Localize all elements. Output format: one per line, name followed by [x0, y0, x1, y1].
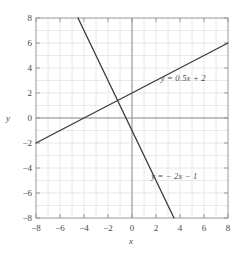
y-tick-label: −6: [14, 188, 32, 198]
x-tick-label: 8: [226, 223, 231, 233]
y-tick-label: −4: [14, 163, 32, 173]
x-tick-label: −8: [31, 223, 41, 233]
data-lines: [36, 18, 228, 218]
x-tick-label: 2: [154, 223, 159, 233]
line-series-1: [78, 18, 174, 218]
x-tick-label: 6: [202, 223, 207, 233]
y-tick-label: −2: [14, 138, 32, 148]
y-tick-label: 6: [14, 38, 32, 48]
x-tick-label: −6: [55, 223, 65, 233]
y-axis-title: y: [6, 113, 10, 123]
y-tick-label: 8: [14, 13, 32, 23]
line-series-0: [36, 43, 228, 143]
equation-label-series-1: y = − 2x − 1: [151, 171, 197, 181]
equation-label-series-0: y = 0.5x + 2: [161, 73, 206, 83]
y-tick-label: −8: [14, 213, 32, 223]
plot-area: y = 0.5x + 2 y = − 2x − 1: [36, 18, 228, 218]
x-axis-title: x: [129, 236, 133, 246]
y-tick-label: 0: [14, 113, 32, 123]
x-tick-label: −4: [79, 223, 89, 233]
x-tick-label: 0: [130, 223, 135, 233]
y-tick-label: 2: [14, 88, 32, 98]
chart-figure: 8 6 4 2 0 −2 −4 −6 −8 y −8 −6 −4 −2 0 2 …: [0, 0, 239, 259]
y-tick-label: 4: [14, 63, 32, 73]
x-tick-label: −2: [103, 223, 113, 233]
x-tick-label: 4: [178, 223, 183, 233]
